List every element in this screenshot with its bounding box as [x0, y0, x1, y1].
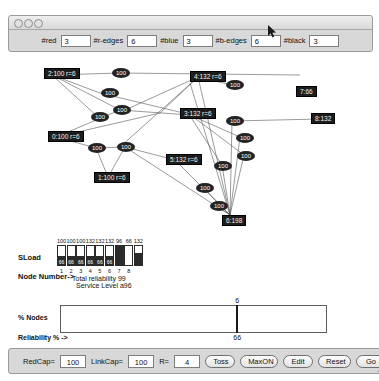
sload-bar-frame: 66 [95, 245, 104, 266]
reliability-axis-label: Reliability % -> [18, 334, 68, 341]
edge-weight-node[interactable]: 100 [210, 201, 228, 211]
sload-bar-frame [115, 245, 124, 266]
sload-bar-index-label: 7 [115, 268, 124, 274]
param-blue-input[interactable]: 3 [183, 35, 213, 47]
graph-node-n7[interactable]: 7:66 [296, 86, 317, 97]
param-black: #black 3 [284, 35, 340, 47]
edge-weight-node[interactable]: 100 [196, 183, 214, 193]
edge-weight-node[interactable]: 100 [88, 143, 106, 153]
service-level-text: Service Level a96 [76, 282, 132, 289]
sload-bar-index-label: 4 [86, 268, 95, 274]
sload-bar-frame [134, 245, 143, 266]
param-b-edges-label: #b-edges [216, 36, 247, 45]
sload-bar-index-label: 3 [76, 268, 85, 274]
sload-bar-frame: 66 [57, 245, 66, 266]
graph-node-n0[interactable]: 0:100 r=6 [48, 131, 84, 142]
graph-edge [125, 77, 198, 110]
zoom-dot-icon[interactable] [34, 19, 43, 28]
redcap-label: RedCap= [23, 357, 55, 366]
graph-node-n8[interactable]: 8:132 [311, 113, 335, 124]
sload-bar-frame [124, 245, 133, 266]
network-graph-canvas[interactable]: 2:100 r=64:132 r=67:663:132 r=68:1320:10… [0, 55, 379, 230]
sload-bar-index-label: 2 [67, 268, 76, 274]
sload-bar-fill [116, 246, 123, 265]
redcap-input[interactable]: 100 [60, 355, 86, 368]
parameters-window: #red 3 #r-edges 6 #blue 3 #b-edges 6 #bl… [8, 15, 373, 52]
window-titlebar[interactable] [9, 16, 372, 30]
graph-node-n4[interactable]: 4:132 r=6 [190, 71, 226, 82]
go-button[interactable]: Go [356, 355, 379, 368]
graph-node-n6[interactable]: 6:198 [222, 215, 246, 226]
percent-nodes-label: % Nodes [18, 314, 48, 321]
bottom-toolbar: RedCap= 100 LinkCap= 100 R= 4 Toss MaxON… [8, 348, 379, 374]
edge-weight-node[interactable]: 100 [237, 151, 255, 161]
param-r-edges-input[interactable]: 6 [127, 35, 157, 47]
sload-bar-frame: 66 [86, 245, 95, 266]
sload-bar-frame: 66 [76, 245, 85, 266]
edge-weight-node[interactable]: 100 [101, 88, 119, 98]
graph-edge [232, 119, 320, 121]
param-black-input[interactable]: 3 [309, 35, 339, 47]
param-r-edges-label: #r-edges [94, 36, 124, 45]
minimize-dot-icon[interactable] [24, 19, 33, 28]
param-red-input[interactable]: 3 [61, 35, 91, 47]
edge-weight-node[interactable]: 100 [236, 133, 254, 143]
param-blue-label: #blue [160, 36, 178, 45]
sload-bar-index-label: 5 [95, 268, 104, 274]
sload-bar-inner-label: 66 [87, 259, 94, 265]
param-blue: #blue 3 [160, 35, 212, 47]
sload-bar-index-label: 1 [57, 268, 66, 274]
sload-axis-label: SLoad [18, 253, 41, 262]
edge-weight-node[interactable]: 100 [214, 161, 232, 171]
maxon-button[interactable]: MaxON [240, 355, 278, 368]
reset-button[interactable]: Reset [318, 355, 351, 368]
sload-bar-inner-label: 66 [106, 259, 113, 265]
percent-nodes-bar-bottom-label: 66 [233, 334, 241, 341]
parameter-row: #red 3 #r-edges 6 #blue 3 #b-edges 6 #bl… [9, 30, 372, 51]
param-r-edges: #r-edges 6 [94, 35, 158, 47]
sload-bar-frame: 66 [67, 245, 76, 266]
edge-weight-node[interactable]: 100 [117, 142, 135, 152]
r-input[interactable]: 4 [174, 355, 200, 368]
sload-bar-index-label: 6 [105, 268, 114, 274]
edge-weight-node[interactable]: 100 [113, 105, 131, 115]
total-reliability-text: Total reliability 99 [72, 275, 126, 282]
edge-weight-node[interactable]: 100 [112, 68, 130, 78]
sload-bar-inner-label: 66 [77, 259, 84, 265]
sload-bar-fill [135, 253, 142, 265]
edge-weight-node[interactable]: 100 [226, 116, 244, 126]
param-red-label: #red [42, 36, 57, 45]
graph-node-n1[interactable]: 1:100 r=6 [94, 172, 130, 183]
graph-node-n2[interactable]: 2:100 r=6 [44, 68, 80, 79]
r-label: R= [159, 357, 169, 366]
percent-nodes-chart: % Nodes Reliability % -> 666 [0, 298, 379, 344]
linkcap-input[interactable]: 100 [128, 355, 154, 368]
percent-nodes-bar-top-label: 6 [235, 297, 239, 304]
param-red: #red 3 [42, 35, 91, 47]
sload-bar-frame: 66 [105, 245, 114, 266]
graph-node-n5[interactable]: 5:132 r=6 [166, 154, 202, 165]
percent-nodes-bar [236, 305, 238, 333]
edit-button[interactable]: Edit [283, 355, 313, 368]
sload-bar-inner-label: 66 [68, 259, 75, 265]
graph-edge [52, 75, 98, 117]
edge-weight-node[interactable]: 100 [91, 112, 109, 122]
graph-node-n3[interactable]: 3:132 r=6 [180, 108, 216, 119]
sload-bar-top-label: 132 [131, 238, 146, 244]
sload-chart: SLoad Node Number-> 10066110066210066313… [0, 232, 379, 296]
sload-bar-inner-label: 66 [96, 259, 103, 265]
percent-nodes-frame [60, 305, 327, 333]
graph-edge [198, 77, 230, 215]
param-black-label: #black [284, 36, 306, 45]
linkcap-label: LinkCap= [91, 357, 123, 366]
close-dot-icon[interactable] [14, 19, 23, 28]
edge-weight-node[interactable]: 100 [226, 80, 244, 90]
toss-button[interactable]: Toss [205, 355, 235, 368]
sload-bar-inner-label: 66 [58, 259, 65, 265]
graph-edge [230, 155, 244, 215]
sload-bar-index-label: 8 [124, 268, 133, 274]
